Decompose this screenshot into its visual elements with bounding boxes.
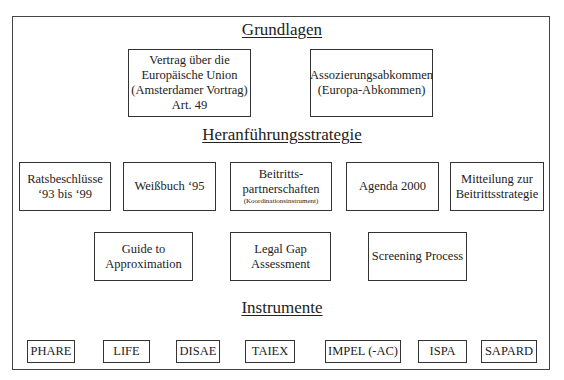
heading-heranfuehrungsstrategie: Heranführungsstrategie (0, 125, 564, 145)
box-note: (Koordinationsinstrument) (244, 197, 319, 206)
box-screening-process: Screening Process (368, 232, 467, 281)
box-line: Beitrittsstrategie (456, 187, 539, 202)
box-line: Screening Process (372, 249, 463, 264)
box-line: ‘93 bis ‘99 (38, 187, 92, 202)
box-beitrittspartnerschaften: Beitritts- partnerschaften (Koordination… (230, 162, 332, 211)
instrument-impel: IMPEL (-AC) (325, 340, 401, 363)
box-assoziierungsabkommen: Assozierungsabkommen (Europa-Abkommen) (310, 49, 433, 117)
box-guide-to-approximation: Guide to Approximation (94, 232, 193, 281)
box-line: Approximation (105, 257, 181, 272)
box-line: Assessment (251, 257, 310, 272)
box-mitteilung-beitrittsstrategie: Mitteilung zur Beitrittsstrategie (450, 162, 544, 211)
instrument-disae: DISAE (176, 340, 220, 363)
instrument-sapard: SAPARD (481, 340, 537, 363)
box-line: Ratsbeschlüsse (27, 172, 103, 187)
box-line: partnerschaften (242, 182, 319, 197)
heading-grundlagen: Grundlagen (0, 20, 564, 40)
box-line: (Europa-Abkommen) (318, 83, 426, 98)
box-eu-vertrag: Vertrag über die Europäische Union (Amst… (128, 49, 251, 117)
box-line: Legal Gap (254, 242, 306, 257)
box-line: Guide to (122, 242, 165, 257)
box-line: (Amsterdamer Vortrag) (131, 83, 248, 98)
box-line: Vertrag über die (149, 53, 230, 68)
instrument-taiex: TAIEX (245, 340, 295, 363)
instrument-ispa: ISPA (418, 340, 467, 363)
box-line: Assozierungsabkommen (310, 68, 433, 83)
box-line: Europäische Union (141, 68, 237, 83)
box-ratsbeschluesse: Ratsbeschlüsse ‘93 bis ‘99 (19, 162, 111, 211)
box-legal-gap-assessment: Legal Gap Assessment (230, 232, 331, 281)
box-agenda-2000: Agenda 2000 (346, 162, 439, 211)
box-line: Mitteilung zur (461, 172, 533, 187)
box-line: Weißbuch ‘95 (134, 179, 204, 194)
box-line: Art. 49 (172, 98, 207, 113)
box-line: Beitritts- (259, 167, 303, 182)
box-line: Agenda 2000 (359, 179, 426, 194)
box-weissbuch: Weißbuch ‘95 (123, 162, 216, 211)
instrument-life: LIFE (103, 340, 150, 363)
instrument-phare: PHARE (27, 340, 75, 363)
heading-instrumente: Instrumente (0, 298, 564, 318)
